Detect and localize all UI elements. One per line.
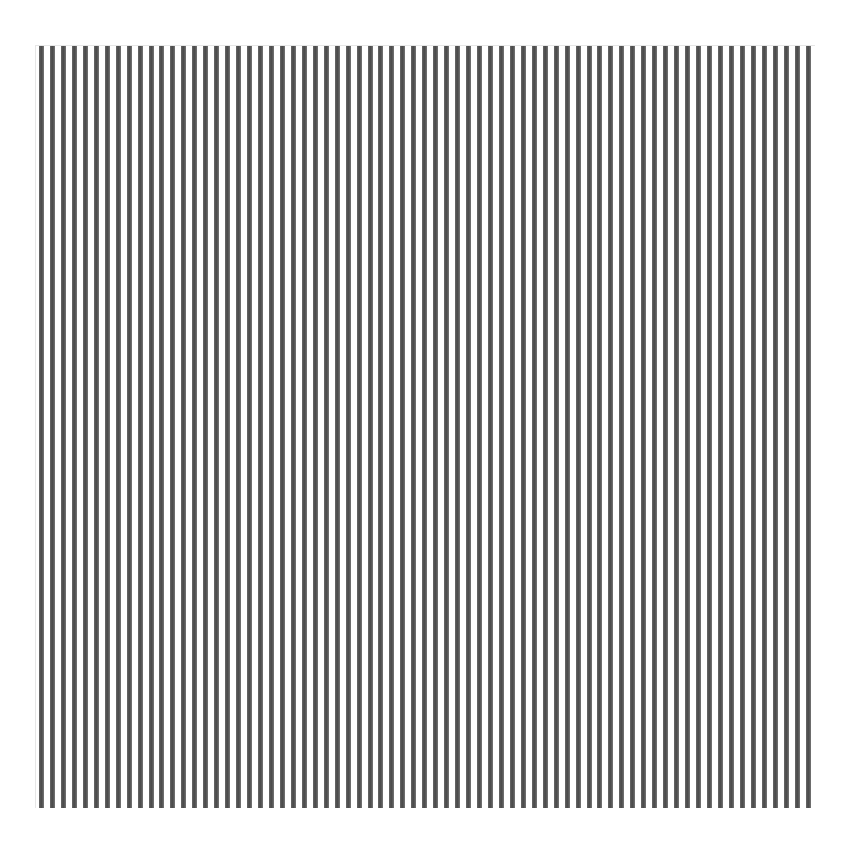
stripe bbox=[368, 46, 373, 808]
stripe bbox=[346, 46, 351, 808]
stripe bbox=[663, 46, 668, 808]
stripe bbox=[433, 46, 438, 808]
stripe bbox=[313, 46, 318, 808]
stripe bbox=[127, 46, 132, 808]
stripe bbox=[422, 46, 427, 808]
stripe bbox=[411, 46, 416, 808]
stripe bbox=[510, 46, 515, 808]
stripe bbox=[94, 46, 99, 808]
stripe bbox=[138, 46, 143, 808]
stripe bbox=[773, 46, 778, 808]
stripe bbox=[532, 46, 537, 808]
stripe bbox=[641, 46, 646, 808]
stripe bbox=[521, 46, 526, 808]
stripe bbox=[357, 46, 362, 808]
stripe bbox=[718, 46, 723, 808]
stripe bbox=[477, 46, 482, 808]
stripe bbox=[203, 46, 208, 808]
stripe bbox=[236, 46, 241, 808]
stripe bbox=[707, 46, 712, 808]
stripe bbox=[389, 46, 394, 808]
stripe bbox=[50, 46, 55, 808]
stripe bbox=[116, 46, 121, 808]
stripe bbox=[170, 46, 175, 808]
stripe bbox=[543, 46, 548, 808]
stripe bbox=[400, 46, 405, 808]
stripe bbox=[61, 46, 66, 808]
stripe bbox=[587, 46, 592, 808]
stripe bbox=[762, 46, 767, 808]
stripe bbox=[685, 46, 690, 808]
stripe bbox=[652, 46, 657, 808]
stripe bbox=[608, 46, 613, 808]
stripe bbox=[83, 46, 88, 808]
stripe bbox=[729, 46, 734, 808]
stripe bbox=[784, 46, 789, 808]
stripe bbox=[39, 46, 44, 808]
stripe bbox=[554, 46, 559, 808]
stripe bbox=[795, 46, 800, 808]
stripe bbox=[806, 46, 811, 808]
stripe bbox=[488, 46, 493, 808]
stripe bbox=[291, 46, 296, 808]
stripe bbox=[751, 46, 756, 808]
stripe bbox=[225, 46, 230, 808]
stripe bbox=[499, 46, 504, 808]
stripe bbox=[269, 46, 274, 808]
stripe bbox=[72, 46, 77, 808]
stripe bbox=[149, 46, 154, 808]
stripe bbox=[335, 46, 340, 808]
stripe-field bbox=[39, 46, 815, 808]
stripe bbox=[565, 46, 570, 808]
stripe bbox=[696, 46, 701, 808]
stripe bbox=[740, 46, 745, 808]
stripe bbox=[280, 46, 285, 808]
stripe-pattern-panel bbox=[35, 45, 815, 808]
stripe bbox=[192, 46, 197, 808]
stripe bbox=[674, 46, 679, 808]
stripe bbox=[597, 46, 602, 808]
stripe bbox=[455, 46, 460, 808]
stripe bbox=[619, 46, 624, 808]
stripe bbox=[444, 46, 449, 808]
stripe bbox=[181, 46, 186, 808]
stripe bbox=[258, 46, 263, 808]
stripe bbox=[630, 46, 635, 808]
stripe bbox=[576, 46, 581, 808]
stripe bbox=[378, 46, 383, 808]
stripe bbox=[159, 46, 164, 808]
stripe bbox=[247, 46, 252, 808]
stripe bbox=[302, 46, 307, 808]
stripe bbox=[214, 46, 219, 808]
stripe bbox=[324, 46, 329, 808]
stripe bbox=[466, 46, 471, 808]
stripe bbox=[105, 46, 110, 808]
